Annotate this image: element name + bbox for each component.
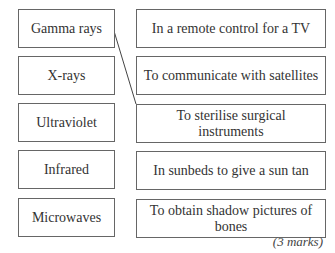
right-box-remote-control[interactable]: In a remote control for a TV	[136, 9, 326, 48]
left-box-label: Gamma rays	[31, 21, 102, 37]
right-box-label: To communicate with satellites	[144, 68, 318, 83]
right-box-label: In sunbeds to give a sun tan	[153, 163, 309, 178]
right-box-label: In a remote control for a TV	[152, 21, 310, 36]
left-box-label: Ultraviolet	[36, 115, 97, 131]
left-box-label: X-rays	[47, 68, 85, 84]
right-box-shadow-pictures[interactable]: To obtain shadow pictures of bones	[136, 199, 326, 238]
left-box-gamma-rays[interactable]: Gamma rays	[18, 9, 115, 48]
marks-label: (3 marks)	[273, 234, 323, 250]
right-box-satellites[interactable]: To communicate with satellites	[136, 56, 326, 95]
right-box-sunbeds[interactable]: In sunbeds to give a sun tan	[136, 151, 326, 190]
left-box-ultraviolet[interactable]: Ultraviolet	[18, 103, 115, 142]
right-box-label: To obtain shadow pictures of bones	[150, 203, 312, 234]
right-box-label: To sterilise surgical instruments	[176, 108, 285, 139]
right-box-sterilise[interactable]: To sterilise surgical instruments	[136, 104, 326, 143]
left-box-x-rays[interactable]: X-rays	[18, 56, 115, 95]
left-box-microwaves[interactable]: Microwaves	[18, 198, 115, 237]
left-box-label: Infrared	[44, 162, 89, 178]
left-box-infrared[interactable]: Infrared	[18, 150, 115, 189]
left-box-label: Microwaves	[32, 210, 101, 226]
